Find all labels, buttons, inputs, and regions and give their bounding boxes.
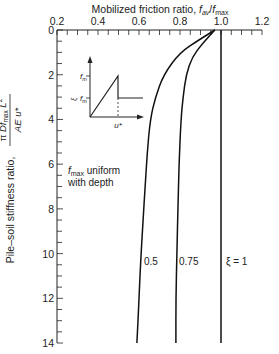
x-tick-labels: 0.20.40.60.81.01.2 xyxy=(50,15,270,27)
series-line xyxy=(176,30,215,343)
series-label-1: ξ = 1 xyxy=(226,256,248,268)
series-label-0.5: 0.5 xyxy=(144,256,158,267)
annotation-line2: with depth xyxy=(67,177,114,188)
inset-fm-label: fm xyxy=(80,72,87,82)
y-tick-label: 2 xyxy=(48,69,54,81)
svg-text:AE u*: AE u* xyxy=(12,108,23,134)
x-axis-title: Mobilized friction ratio, fav/fmax xyxy=(92,3,229,16)
inset-xi-fm-label: fm xyxy=(80,94,87,104)
y-tick-label: 0 xyxy=(48,24,54,36)
inset-u-label: u* xyxy=(114,121,122,130)
chart: Mobilized friction ratio, fav/fmax 0.20.… xyxy=(0,0,279,354)
inset-diagram: fm fm ξ u* xyxy=(70,56,144,130)
y-axis-title: Pile–soil stiffness ratio, π Dfmax L2 AE… xyxy=(0,94,23,263)
y-tick-label: 14 xyxy=(42,337,54,349)
x-tick-label: 1.2 xyxy=(255,15,270,27)
svg-text:π Dfmax L2: π Dfmax L2 xyxy=(0,98,9,141)
y-tick-label: 4 xyxy=(48,113,54,125)
x-tick-label: 0.6 xyxy=(132,15,147,27)
inset-xi-label: ξ xyxy=(70,97,78,101)
annotation-line1: fmax uniform xyxy=(68,165,120,177)
x-tick-label: 1.0 xyxy=(214,15,229,27)
svg-text:Pile–soil stiffness ratio,: Pile–soil stiffness ratio, xyxy=(4,157,16,264)
y-tick-label: 10 xyxy=(42,248,54,260)
y-tick-label: 8 xyxy=(48,203,54,215)
series-label-0.75: 0.75 xyxy=(179,256,199,267)
y-tick-label: 12 xyxy=(42,292,54,304)
series-lines xyxy=(137,30,221,343)
x-tick-label: 0.4 xyxy=(91,15,106,27)
x-tick-label: 0.8 xyxy=(173,15,188,27)
y-tick-label: 6 xyxy=(48,158,54,170)
